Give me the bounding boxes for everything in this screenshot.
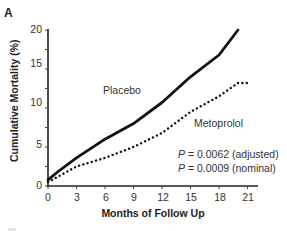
- next-panel-fragment: [8, 228, 16, 231]
- p-value-nominal: P = 0.0009 (nominal): [178, 162, 276, 174]
- y-tick-label: 15: [22, 57, 42, 69]
- x-tick-label: 18: [210, 191, 230, 203]
- y-axis-label: Cumulative Mortality (%): [8, 42, 20, 162]
- x-tick-label: 9: [124, 191, 144, 203]
- x-tick-label: 21: [238, 191, 258, 203]
- x-tick-label: 15: [181, 191, 201, 203]
- p-value-adjusted-text: = 0.0062 (adjusted): [185, 148, 279, 160]
- x-tick-label: 12: [153, 191, 173, 203]
- x-tick-label: 0: [38, 191, 58, 203]
- p-value-adjusted: P = 0.0062 (adjusted): [178, 148, 279, 160]
- metoprolol-label: Metoprolol: [194, 117, 243, 129]
- p-symbol: P: [178, 162, 185, 174]
- x-axis-label: Months of Follow Up: [48, 207, 258, 219]
- x-tick-label: 6: [96, 191, 116, 203]
- p-symbol: P: [178, 148, 185, 160]
- y-tick-label: 0: [22, 179, 42, 191]
- y-tick-label: 20: [22, 23, 42, 35]
- x-tick-label: 3: [67, 191, 87, 203]
- y-tick-label: 5: [22, 138, 42, 150]
- p-value-nominal-text: = 0.0009 (nominal): [185, 162, 276, 174]
- y-tick-label: 10: [22, 96, 42, 108]
- placebo-label: Placebo: [103, 84, 141, 96]
